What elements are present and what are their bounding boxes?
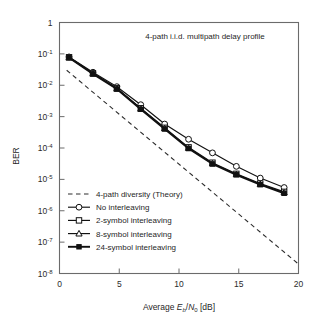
y-tick-label: 1 [48, 18, 53, 28]
data-marker-square-filled [186, 146, 190, 150]
legend-label: 24-symbol interleaving [96, 243, 176, 252]
legend-label: 8-symbol interleaving [96, 230, 172, 239]
data-marker-circle [210, 150, 216, 156]
y-axis-title: BER [11, 147, 21, 164]
ber-vs-ebn0-chart: 110-110-210-310-410-510-610-710-8 051015… [0, 0, 323, 330]
data-marker-circle [233, 163, 239, 169]
ber-performance-figure: 110-110-210-310-410-510-610-710-8 051015… [0, 0, 323, 330]
data-marker-square-filled [115, 87, 119, 91]
legend-swatch-circle-open [76, 204, 82, 210]
x-tick-label: 5 [117, 279, 122, 289]
data-marker-square-filled [67, 55, 71, 59]
data-marker-square-filled [162, 127, 166, 131]
data-marker-square-filled [210, 162, 214, 166]
x-tick-label: 10 [174, 279, 184, 289]
x-axis-title-unit: [dB] [198, 302, 215, 312]
data-marker-square-filled [234, 173, 238, 177]
data-marker-square-filled [91, 72, 95, 76]
x-tick-label: 20 [294, 279, 304, 289]
x-axis-title-prefix: Average [143, 302, 177, 312]
data-marker-circle [186, 136, 192, 142]
legend-swatch-square-open [76, 218, 81, 223]
legend-label: 2-symbol interleaving [96, 216, 172, 225]
x-tick-label: 15 [234, 279, 244, 289]
legend-label: 4-path diversity (Theory) [96, 190, 183, 199]
x-tick-label: 0 [57, 279, 62, 289]
data-marker-square-filled [282, 191, 286, 195]
plot-annotation: 4-path i.i.d. multipath delay profile [145, 32, 265, 41]
legend-label: No interleaving [96, 203, 149, 212]
x-axis-title: Average Eb/N0 [dB] [143, 302, 215, 313]
data-marker-square-filled [139, 107, 143, 111]
legend-swatch-square-filled [77, 245, 81, 249]
svg-text:Average Eb/N0 [dB]: Average Eb/N0 [dB] [143, 302, 215, 313]
data-marker-square-filled [258, 182, 262, 186]
